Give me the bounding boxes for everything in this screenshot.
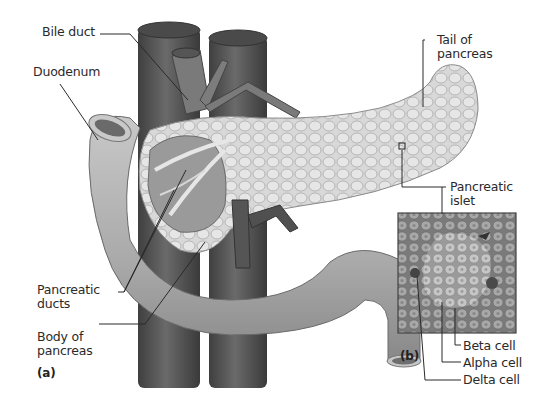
label-bile-duct: Bile duct (42, 25, 95, 39)
label-body-of-pancreas: Body of pancreas (37, 330, 93, 358)
label-beta-cell: Beta cell (463, 339, 516, 353)
islet-micrograph (398, 213, 516, 333)
label-pancreatic-islet: Pancreatic islet (450, 180, 513, 208)
label-duodenum: Duodenum (33, 65, 100, 79)
label-pancreatic-ducts: Pancreatic ducts (37, 283, 100, 311)
label-panel-b: (b) (400, 349, 419, 363)
label-alpha-cell: Alpha cell (463, 356, 522, 370)
label-panel-a: (a) (37, 366, 55, 380)
label-tail-of-pancreas: Tail of pancreas (437, 33, 493, 61)
label-delta-cell: Delta cell (463, 373, 520, 387)
